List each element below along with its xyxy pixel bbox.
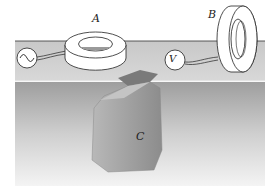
- diagram-canvas: [0, 0, 280, 186]
- diagram: A B V C: [0, 0, 280, 186]
- coil-b: [217, 6, 257, 72]
- voltmeter-label: V: [169, 53, 176, 64]
- coil-b-label: B: [208, 8, 216, 21]
- object-c-label: C: [136, 130, 144, 143]
- coil-a-label: A: [92, 12, 100, 25]
- coil-a: [65, 32, 126, 70]
